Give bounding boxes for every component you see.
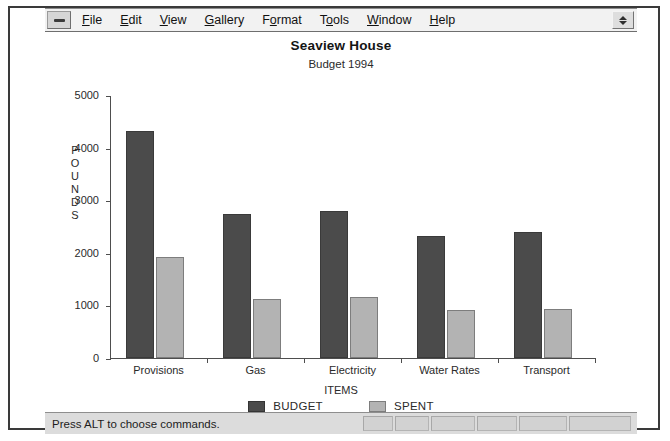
menu-bar: File Edit View Gallery Format Tools Wind… [45, 8, 637, 32]
x-axis-title: ITEMS [45, 384, 637, 396]
category-label: Electricity [329, 364, 376, 376]
menu-item-file[interactable]: File [81, 12, 103, 29]
x-axis-tick [498, 358, 499, 363]
x-axis-tick [304, 358, 305, 363]
status-panel-3 [431, 416, 475, 431]
y-axis-tick-label: 2000 [75, 247, 99, 259]
y-axis-tick: 0 [106, 359, 111, 360]
y-axis-tick: 2000 [106, 254, 111, 255]
plot-area: 010002000300040005000 ProvisionsGasElect… [110, 96, 595, 359]
y-axis-tick-label: 0 [93, 352, 99, 364]
category-label: Transport [523, 364, 570, 376]
up-arrow-icon [619, 16, 627, 20]
system-menu-button[interactable] [47, 11, 71, 29]
menu-item-format[interactable]: Format [261, 12, 303, 29]
status-panel-6 [569, 416, 631, 431]
y-axis-tick-label: 3000 [75, 194, 99, 206]
bar-budget-provisions[interactable] [126, 131, 154, 358]
application-window: File Edit View Gallery Format Tools Wind… [45, 8, 637, 436]
legend-swatch-spent [369, 401, 386, 412]
menu-item-view[interactable]: View [159, 12, 188, 29]
x-axis-tick [207, 358, 208, 363]
menu-item-window[interactable]: Window [366, 12, 412, 29]
bar-budget-electricity[interactable] [320, 211, 348, 358]
bar-spent-transport[interactable] [544, 309, 572, 358]
category-label: Gas [245, 364, 265, 376]
bar-budget-water-rates[interactable] [417, 236, 445, 358]
bar-spent-provisions[interactable] [156, 257, 184, 358]
menu-item-tools[interactable]: Tools [319, 12, 350, 29]
status-bar: Press ALT to choose commands. [45, 412, 637, 434]
scanned-page-background: File Edit View Gallery Format Tools Wind… [0, 0, 670, 441]
status-panel-5 [519, 416, 567, 431]
category-label: Water Rates [419, 364, 480, 376]
status-panel-1 [363, 416, 393, 431]
y-axis-tick-label: 5000 [75, 89, 99, 101]
bar-budget-gas[interactable] [223, 214, 251, 358]
y-axis-tick: 3000 [106, 201, 111, 202]
legend-label-budget: BUDGET [273, 400, 323, 412]
y-axis-title: POUNDS [67, 144, 83, 222]
x-axis-tick [401, 358, 402, 363]
chart-subtitle: Budget 1994 [45, 58, 637, 70]
chart-client-area[interactable]: Seaview House Budget 1994 POUNDS 0100020… [45, 32, 637, 412]
x-axis-line [110, 358, 595, 359]
legend-swatch-budget [248, 401, 265, 412]
menu-item-list: File Edit View Gallery Format Tools Wind… [75, 9, 610, 31]
y-axis-title-letter: O [67, 157, 83, 170]
down-arrow-icon [619, 21, 627, 25]
status-panel-group [220, 413, 637, 434]
bar-budget-transport[interactable] [514, 232, 542, 358]
legend-entry-spent[interactable]: SPENT [369, 400, 434, 412]
y-axis-line [110, 96, 111, 359]
y-axis-title-letter: U [67, 170, 83, 183]
menu-item-help[interactable]: Help [428, 12, 456, 29]
status-panel-2 [395, 416, 429, 431]
x-axis-tick [595, 358, 596, 363]
y-axis-tick-label: 1000 [75, 299, 99, 311]
y-axis-tick: 1000 [106, 306, 111, 307]
menu-item-edit[interactable]: Edit [119, 12, 143, 29]
menu-item-gallery[interactable]: Gallery [204, 12, 246, 29]
restore-window-button[interactable] [612, 11, 634, 29]
category-label: Provisions [133, 364, 184, 376]
y-axis-tick: 5000 [106, 96, 111, 97]
minimize-dash-icon [54, 19, 65, 22]
bar-spent-gas[interactable] [253, 299, 281, 358]
y-axis-tick: 4000 [106, 149, 111, 150]
y-axis-title-letter: S [67, 209, 83, 222]
chart-title: Seaview House [45, 38, 637, 53]
legend-label-spent: SPENT [394, 400, 434, 412]
chart-legend: BUDGETSPENT [45, 400, 637, 412]
status-message: Press ALT to choose commands. [45, 418, 220, 430]
y-axis-tick-label: 4000 [75, 142, 99, 154]
bar-spent-water-rates[interactable] [447, 310, 475, 358]
status-panel-4 [477, 416, 517, 431]
legend-entry-budget[interactable]: BUDGET [248, 400, 323, 412]
bar-spent-electricity[interactable] [350, 297, 378, 358]
